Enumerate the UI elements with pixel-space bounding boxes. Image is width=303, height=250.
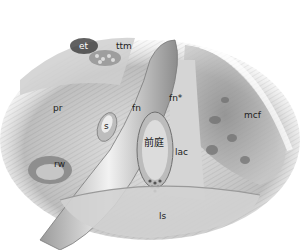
label-rw: rw [54,160,65,169]
label-ls: ls [159,212,166,221]
label-mcf: mcf [244,111,261,120]
temporal-bone-illustration [0,0,303,250]
anatomical-figure: et ttm pr fn fn* s 前庭 lac mcf rw ls [0,0,303,250]
label-lac: lac [175,148,188,157]
label-et: et [79,42,88,51]
label-s: s [104,122,109,131]
label-vestibule: 前庭 [144,138,164,148]
tensor-tympani-muscle [89,50,121,66]
label-fn-star: fn* [169,94,182,103]
label-fn: fn [132,104,141,113]
label-pr: pr [53,104,62,113]
label-ttm: ttm [116,42,132,51]
